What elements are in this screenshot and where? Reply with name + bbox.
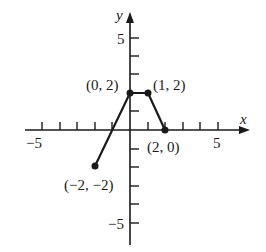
point-1-2 <box>145 90 152 97</box>
point-label-neg2-neg2: (−2, −2) <box>64 177 113 194</box>
x-axis-arrow-icon <box>239 126 250 134</box>
y-axis-arrow-icon <box>126 12 134 23</box>
point-label-2-0: (2, 0) <box>147 139 180 156</box>
x-axis-label: x <box>239 111 247 127</box>
y-axis-label: y <box>114 7 123 23</box>
x-axis <box>25 122 250 134</box>
y-tick-label-5: 5 <box>117 31 125 47</box>
point-label-1-2: (1, 2) <box>153 77 186 94</box>
y-axis <box>126 12 139 245</box>
point-2-0 <box>162 127 169 134</box>
x-tick-label-neg5: −5 <box>26 135 42 151</box>
point-label-0-2: (0, 2) <box>86 77 119 94</box>
point-neg2-neg2 <box>92 163 99 170</box>
x-tick-label-5: 5 <box>213 135 221 151</box>
point-0-2 <box>127 90 134 97</box>
function-graph: y x −5 5 5 −5 (0, 2) (1, 2) (2, 0) (−2, … <box>0 0 266 252</box>
y-tick-label-neg5: −5 <box>108 216 124 232</box>
